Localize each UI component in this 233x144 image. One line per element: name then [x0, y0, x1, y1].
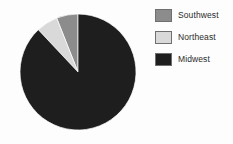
legend-item-southwest[interactable]: Southwest	[155, 8, 233, 22]
pie-svg	[0, 0, 150, 144]
legend-item-northeast[interactable]: Northeast	[155, 30, 233, 44]
legend-label-southwest: Southwest	[178, 10, 219, 20]
pie-plot-area	[0, 0, 150, 144]
legend-label-midwest: Midwest	[178, 54, 210, 64]
pie-slice-group	[20, 14, 136, 130]
legend-swatch-southwest	[155, 9, 172, 22]
pie-slice-midwest[interactable]	[20, 14, 136, 130]
chart-legend: Southwest Northeast Midwest	[155, 8, 233, 66]
legend-swatch-northeast	[155, 31, 172, 44]
legend-label-northeast: Northeast	[178, 32, 216, 42]
pie-chart-figure: Southwest Northeast Midwest	[0, 0, 233, 144]
legend-swatch-midwest	[155, 53, 172, 66]
legend-item-midwest[interactable]: Midwest	[155, 52, 233, 66]
